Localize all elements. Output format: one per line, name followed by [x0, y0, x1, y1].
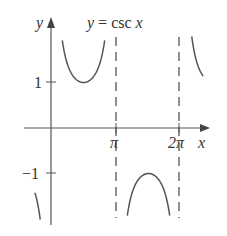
y-axis-arrow-icon	[47, 17, 55, 28]
title-csc: csc	[111, 14, 131, 31]
curve-branch-2	[127, 174, 169, 216]
title-y: y	[85, 14, 95, 32]
y-tick-label-1: 1	[34, 74, 42, 91]
x-tick-label-pi: π	[110, 134, 119, 151]
x-tick-label-2pi: 2π	[168, 134, 185, 151]
title-eq: =	[98, 14, 107, 31]
axes	[24, 17, 210, 225]
title-x: x	[135, 14, 143, 31]
x-axis-label: x	[197, 134, 205, 151]
y-axis-label: y	[34, 14, 44, 32]
chart-title: y=cscx	[85, 14, 143, 32]
y-tick-label-neg1: −1	[22, 165, 39, 182]
csc-chart: y y=cscx 1 −1 π 2π x	[0, 0, 227, 236]
curve-branch-4	[35, 193, 40, 220]
curve-branch-3	[192, 36, 203, 76]
x-axis-arrow-icon	[200, 124, 210, 132]
curve-branch-1	[62, 40, 104, 82]
